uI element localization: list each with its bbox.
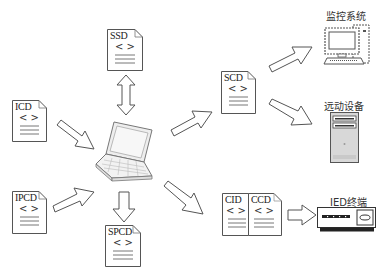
ipcd-document: < > IPCD (12, 191, 47, 234)
bidirectional-arrow-ssd (116, 74, 136, 116)
svg-text:< >: < > (228, 83, 248, 94)
server-tower-icon (330, 112, 360, 164)
svg-text:< >: < > (113, 237, 133, 248)
ied-device-icon (317, 207, 377, 233)
arrow-laptop-to-spcd (112, 191, 136, 223)
icd-label: ICD (15, 101, 31, 112)
ssd-document: < > SSD (107, 29, 143, 71)
spcd-document: < > SPCD (105, 225, 141, 267)
ipcd-label: IPCD (15, 192, 37, 203)
scd-label: SCD (224, 72, 243, 83)
icd-document: < > ICD (12, 100, 47, 142)
monitoring-system-label: 监控系统 (326, 8, 366, 23)
ssd-label: SSD (110, 30, 127, 41)
arrow-laptop-to-cid-ccd (163, 180, 205, 216)
scd-document: < > SCD (221, 71, 256, 114)
arrow-icd-to-laptop (55, 118, 97, 152)
cid-document: < > CID (222, 193, 249, 236)
telecontrol-device-label: 远动设备 (324, 98, 364, 113)
laptop-icon (92, 118, 172, 186)
svg-text:< >: < > (226, 205, 246, 216)
ccd-document: < > CCD (248, 193, 282, 236)
arrow-ipcd-to-laptop (52, 182, 96, 214)
svg-text:< >: < > (19, 203, 39, 214)
arrow-scd-to-monitoring (268, 44, 314, 74)
cid-label: CID (225, 194, 241, 205)
svg-text:< >: < > (254, 205, 274, 216)
arrow-laptop-to-scd (170, 108, 214, 138)
arrow-ccd-to-ied (287, 204, 317, 226)
arrow-scd-to-telecontrol (268, 98, 314, 128)
computer-monitor-icon (323, 22, 371, 66)
ccd-label: CCD (251, 194, 271, 205)
svg-text:< >: < > (115, 41, 135, 52)
spcd-label: SPCD (108, 226, 132, 237)
svg-text:< >: < > (19, 112, 39, 123)
